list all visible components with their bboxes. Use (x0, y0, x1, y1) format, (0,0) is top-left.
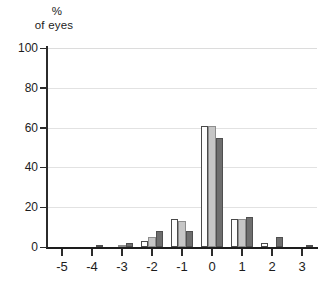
bar (178, 221, 185, 247)
bar-chart: % of eyes 020406080100 -5-4-3-2-10123 (0, 0, 324, 289)
y-axis-tick-label: 80 (4, 82, 38, 94)
y-axis-tick-label: 40 (4, 161, 38, 173)
bar (231, 219, 238, 247)
y-axis-tick-label: 20 (4, 201, 38, 213)
x-axis-tick (241, 249, 243, 256)
x-axis-tick-label: -3 (107, 259, 137, 274)
x-axis-tick (61, 249, 63, 256)
bar (276, 237, 283, 247)
x-axis-tick-label: -2 (137, 259, 167, 274)
x-axis-tick (211, 249, 213, 256)
y-axis-line (46, 46, 48, 249)
x-axis-tick-label: 2 (257, 259, 287, 274)
bar (216, 138, 223, 247)
y-axis-labels: 020406080100 (0, 0, 38, 289)
x-axis-tick (271, 249, 273, 256)
x-axis-tick (91, 249, 93, 256)
y-axis-tick (40, 247, 47, 249)
bar (201, 126, 208, 247)
bar (246, 217, 253, 247)
x-axis-tick-label: -5 (47, 259, 77, 274)
bar (148, 237, 155, 247)
y-axis-tick (40, 167, 47, 169)
x-axis-tick-label: 1 (227, 259, 257, 274)
y-axis-tick-label: 100 (4, 42, 38, 54)
bar (171, 219, 178, 247)
x-axis-tick-label: 3 (287, 259, 317, 274)
y-axis-tick (40, 207, 47, 209)
x-axis-tick (121, 249, 123, 256)
x-axis-tick (181, 249, 183, 256)
bar (238, 219, 245, 247)
plot-area (47, 48, 317, 247)
bars-layer (47, 48, 317, 247)
bar (208, 126, 215, 247)
x-axis-tick-label: 0 (197, 259, 227, 274)
bar (156, 231, 163, 247)
x-axis-tick-label: -4 (77, 259, 107, 274)
x-axis-tick (301, 249, 303, 256)
x-axis-tick-label: -1 (167, 259, 197, 274)
y-axis-tick (40, 48, 47, 50)
y-axis-tick-label: 60 (4, 122, 38, 134)
y-axis-tick (40, 127, 47, 129)
x-axis-tick (151, 249, 153, 256)
y-axis-tick-label: 0 (4, 241, 38, 253)
y-axis-tick (40, 87, 47, 89)
bar (186, 231, 193, 247)
